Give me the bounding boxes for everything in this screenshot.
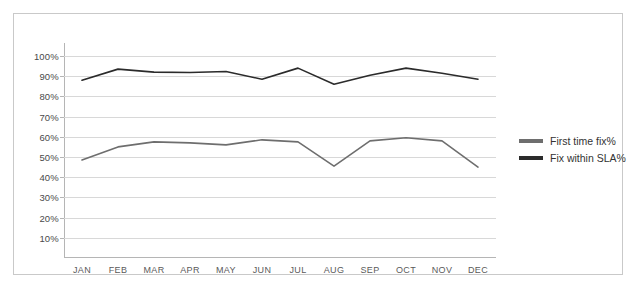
x-axis-tick-label: FEB bbox=[109, 265, 128, 275]
y-axis-tick-label: 80% bbox=[39, 91, 59, 102]
y-axis-tick-label: 40% bbox=[39, 172, 59, 183]
x-axis-tick-label: DEC bbox=[468, 265, 488, 275]
x-axis-tick-label: SEP bbox=[360, 265, 379, 275]
x-axis-tick-label: APR bbox=[180, 265, 200, 275]
x-axis-tick-label: AUG bbox=[324, 265, 345, 275]
y-axis-tick-label: 90% bbox=[39, 71, 59, 82]
plot-area: 10%20%30%40%50%60%70%80%90%100% JANFEBMA… bbox=[64, 43, 496, 258]
legend-item[interactable]: First time fix% bbox=[519, 132, 624, 149]
legend-item-label: First time fix% bbox=[550, 135, 616, 147]
x-axis-tick-label: OCT bbox=[396, 265, 416, 275]
x-axis-tick-label: JUL bbox=[289, 265, 306, 275]
x-axis-tick-label: MAY bbox=[216, 265, 236, 275]
x-axis-tick-label: NOV bbox=[432, 265, 453, 275]
y-axis-tick-label: 50% bbox=[39, 152, 59, 163]
x-axis-tick-label: JAN bbox=[73, 265, 91, 275]
x-axis-tick-label: MAR bbox=[143, 265, 164, 275]
series-line bbox=[82, 68, 478, 84]
y-axis-tick-label: 100% bbox=[34, 51, 59, 62]
series-line bbox=[82, 138, 478, 167]
chart-frame: 10%20%30%40%50%60%70%80%90%100% JANFEBMA… bbox=[13, 13, 623, 275]
y-axis-tick-label: 10% bbox=[39, 232, 59, 243]
y-axis-tick-label: 30% bbox=[39, 192, 59, 203]
legend-item-label: Fix within SLA% bbox=[550, 152, 626, 164]
legend-swatch-icon bbox=[519, 156, 543, 160]
y-axis-tick-label: 70% bbox=[39, 111, 59, 122]
y-axis-tick-label: 20% bbox=[39, 212, 59, 223]
series-lines bbox=[64, 43, 496, 258]
x-axis-tick-label: JUN bbox=[253, 265, 272, 275]
y-axis-tick-label: 60% bbox=[39, 131, 59, 142]
legend-swatch-icon bbox=[519, 139, 543, 143]
chart-legend: First time fix%Fix within SLA% bbox=[519, 132, 624, 166]
legend-item[interactable]: Fix within SLA% bbox=[519, 149, 624, 166]
